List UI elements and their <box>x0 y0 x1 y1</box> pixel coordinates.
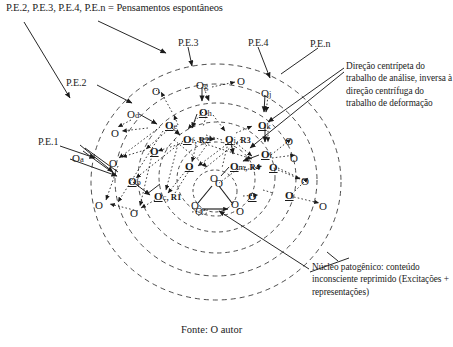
figure-canvas: P.E.2, P.E.3, P.E.4, P.E.n = Pensamentos… <box>0 0 453 347</box>
node-letter: O <box>154 190 163 202</box>
node-oh: Oh <box>199 106 212 118</box>
node-om: Om, R4 <box>230 160 260 172</box>
nucleus-node: O <box>191 199 199 211</box>
node-letter: O <box>261 148 270 160</box>
figure-source-caption: Fonte: O autor <box>181 324 242 337</box>
legend-spontaneous-thoughts: P.E.2, P.E.3, P.E.4, P.E.n = Pensamentos… <box>6 2 223 15</box>
spontaneous-thought-arrows <box>60 47 318 172</box>
patogenic-nucleus-triangle <box>198 186 232 209</box>
node-letter: O <box>183 133 192 145</box>
node-oc: Oc, R1 <box>154 190 181 202</box>
node-og: Og <box>196 79 208 91</box>
node-of: Of, R2 <box>183 133 209 145</box>
representation-node: O <box>109 157 117 169</box>
representation-node: O <box>319 200 327 212</box>
node-letter: O <box>230 160 239 172</box>
representation-node: O <box>285 135 293 147</box>
node-ob: Ob <box>128 175 141 187</box>
annotation-leaders <box>24 21 349 272</box>
representation-node: O <box>111 127 119 139</box>
representation-node: O <box>285 189 294 201</box>
node-oa: Oa <box>72 152 84 164</box>
representation-node: O <box>152 85 160 97</box>
representation-node: O <box>290 152 298 164</box>
node-subscript: j <box>269 89 271 99</box>
annotation-centripetal-direction: Direção centrípeta do trabalho de anális… <box>346 60 453 109</box>
node-subscript: k <box>267 121 271 131</box>
node-ok: Ok <box>258 119 271 131</box>
node-resistance-tag: , R2 <box>194 135 209 145</box>
node-subscript: e <box>174 121 178 131</box>
node-subscript: d <box>135 110 139 120</box>
nucleus-node: O <box>210 172 218 184</box>
node-ol: Ol <box>261 148 272 160</box>
node-letter: O <box>199 106 208 118</box>
pe-label-pe1: P.E.1 <box>38 136 59 148</box>
node-oe: Oe <box>165 119 177 131</box>
node-letter: O <box>258 119 267 131</box>
node-oj: Oj <box>261 87 271 99</box>
representation-node: O <box>95 199 103 211</box>
representation-node: O <box>301 175 309 187</box>
node-letter: O <box>165 119 174 131</box>
pe-label-pe3: P.E.3 <box>178 37 199 49</box>
node-subscript: b <box>137 177 141 187</box>
node-resistance-tag: , R4 <box>245 162 260 172</box>
representation-node: O <box>130 207 138 219</box>
node-letter: O <box>127 108 135 120</box>
node-subscript: a <box>80 154 84 164</box>
representation-node: O <box>237 75 245 87</box>
pe-label-pe4: P.E.4 <box>248 37 269 49</box>
node-letter: O <box>196 79 204 91</box>
node-oi: Oi, R3 <box>225 133 251 145</box>
representation-node: O <box>248 190 257 202</box>
node-subscript: g <box>204 81 208 91</box>
node-subscript: h <box>208 108 212 118</box>
node-resistance-tag: , R3 <box>236 135 251 145</box>
node-letter: O <box>128 175 137 187</box>
node-letter: O <box>225 133 234 145</box>
pe-label-pen: P.E.n <box>310 38 331 50</box>
node-subscript: l <box>270 150 272 160</box>
representation-node: O <box>150 145 159 157</box>
node-od: Od <box>127 108 139 120</box>
representation-node: O <box>269 161 278 173</box>
centripetal-arrows <box>70 87 309 269</box>
nucleus-node: O <box>231 198 239 210</box>
node-letter: O <box>261 87 269 99</box>
node-resistance-tag: , R1 <box>166 192 181 202</box>
representation-node: O <box>185 160 194 172</box>
annotation-patogenic-nucleus: Núcleo patogênico: conteúdo inconsciente… <box>312 261 453 298</box>
pe-label-pe2: P.E.2 <box>66 77 87 89</box>
node-letter: O <box>72 152 80 164</box>
